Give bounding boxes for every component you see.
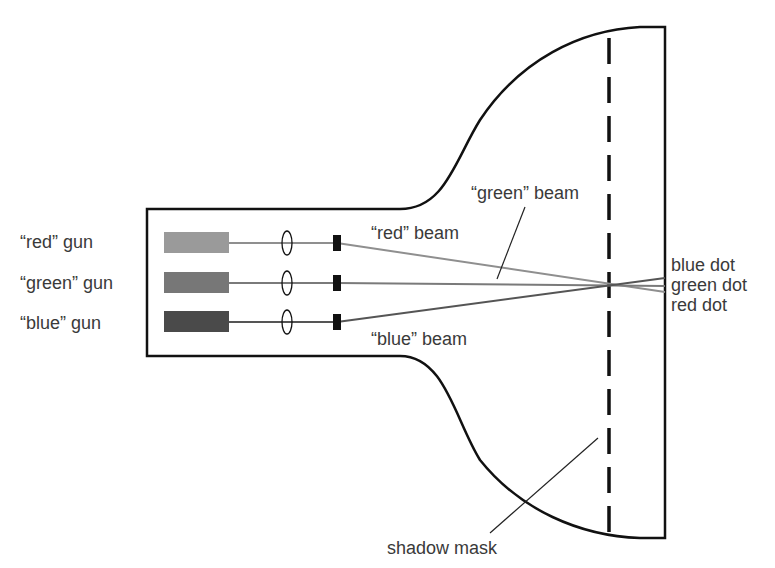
red-beam-label: “red” beam bbox=[371, 223, 459, 243]
green-dot-label: green dot bbox=[671, 275, 747, 295]
green-gun bbox=[164, 272, 229, 293]
red-gun bbox=[164, 232, 229, 253]
blue-gun bbox=[164, 311, 229, 332]
green-aperture bbox=[333, 275, 341, 291]
red-dot-label: red dot bbox=[671, 295, 727, 315]
blue-aperture bbox=[333, 314, 341, 330]
green-beam-label: “green” beam bbox=[471, 183, 579, 203]
crt-diagram: “red” gun “green” gun “blue” gun “green”… bbox=[0, 0, 775, 568]
red-aperture bbox=[333, 235, 341, 251]
shadow-mask-label: shadow mask bbox=[387, 538, 498, 558]
blue-dot-label: blue dot bbox=[671, 255, 735, 275]
red-gun-label: “red” gun bbox=[20, 232, 93, 252]
blue-beam-label: “blue” beam bbox=[371, 329, 467, 349]
blue-gun-label: “blue” gun bbox=[20, 313, 101, 333]
green-gun-label: “green” gun bbox=[20, 273, 113, 293]
